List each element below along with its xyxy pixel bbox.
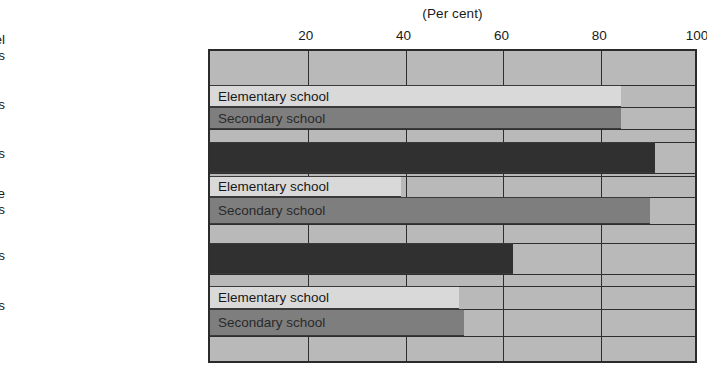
bar-label-0: Elementary school [210, 89, 329, 104]
x-tick-label-80: 80 [592, 28, 607, 43]
bar-0: Elementary school [210, 85, 621, 107]
x-tick-label-40: 40 [396, 28, 411, 43]
x-tick-label-60: 60 [494, 28, 509, 43]
category-label-5: Psychiatric services [0, 298, 5, 314]
row-separator-2 [210, 129, 695, 130]
row-separator-12 [210, 336, 695, 337]
bar-label-1: Secondary school [210, 111, 325, 126]
bar-6: Elementary school [210, 286, 459, 309]
bar-7: Secondary school [210, 309, 464, 336]
x-tick-label-20: 20 [298, 28, 313, 43]
bar-label-4: Secondary school [210, 203, 325, 218]
category-label-2: Speech therapists [0, 146, 5, 162]
category-label-4: School social workers [0, 248, 5, 264]
plot-area: Elementary schoolSecondary schoolElement… [208, 49, 697, 363]
category-label-0: Professional personnel or services [0, 32, 5, 64]
x-tick-label-100: 100 [686, 28, 707, 43]
bar-label-3: Elementary school [210, 179, 329, 194]
bar-3: Elementary school [210, 176, 401, 197]
row-separator-4 [210, 173, 695, 174]
x-axis-title: (Per cent) [208, 6, 697, 21]
bar-chart-figure: (Per cent) 20406080100 Professional pers… [0, 0, 707, 374]
row-separator-7 [210, 224, 695, 225]
category-label-3: Full-time guidance counselors [0, 186, 5, 218]
row-separator-9 [210, 274, 695, 275]
bar-4: Secondary school [210, 197, 650, 224]
plot-inner: Elementary schoolSecondary schoolElement… [210, 51, 695, 361]
bar-5 [210, 243, 513, 274]
category-label-1: Psychologists [0, 97, 5, 113]
bar-label-7: Secondary school [210, 315, 325, 330]
bar-2 [210, 142, 655, 173]
bar-1: Secondary school [210, 107, 621, 129]
bar-label-6: Elementary school [210, 290, 329, 305]
